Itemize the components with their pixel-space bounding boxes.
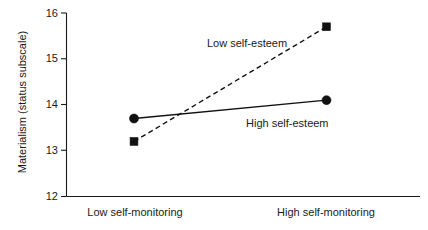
y-tick-label-16: 16 [28, 8, 58, 19]
marker-low-self-esteem-high-monitoring [323, 23, 331, 31]
y-tick-label-14: 14 [28, 99, 58, 110]
y-axis-title: Materialism (status subscale) [16, 12, 28, 192]
series-line-high-self-esteem [134, 100, 327, 118]
annotation-high-self-esteem: High self-esteem [246, 117, 329, 129]
x-axis-label-low-self-monitoring: Low self-monitoring [64, 206, 206, 218]
annotation-low-self-esteem: Low self-esteem [207, 37, 287, 49]
x-axis-label-high-self-monitoring: High self-monitoring [255, 206, 397, 218]
plot-canvas [0, 0, 428, 230]
y-tick-label-12: 12 [28, 191, 58, 202]
y-tick-label-15: 15 [28, 53, 58, 64]
y-tick-label-13: 13 [28, 145, 58, 156]
marker-high-self-esteem-high-monitoring [322, 96, 331, 105]
marker-low-self-esteem-low-monitoring [130, 138, 138, 146]
marker-high-self-esteem-low-monitoring [130, 114, 139, 123]
materialism-self-monitoring-chart: Materialism (status subscale) 16 15 14 1… [0, 0, 428, 230]
